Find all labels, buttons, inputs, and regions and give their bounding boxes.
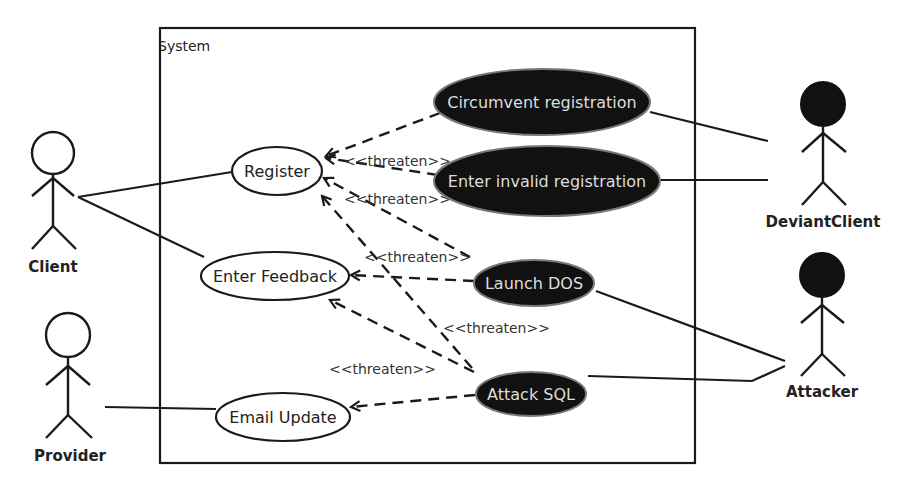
misuse-case-circumvent-registration[interactable]: Circumvent registration [434, 69, 650, 135]
actor-head-icon [46, 313, 90, 357]
misuse-case-launch-dos[interactable]: Launch DOS [474, 260, 594, 306]
use-case-label: Register [244, 162, 310, 181]
actor-deviant-client[interactable]: DeviantClient [766, 82, 881, 231]
use-case-email-update[interactable]: Email Update [216, 393, 350, 441]
threaten-label: <<threaten>> [443, 320, 550, 336]
actor-client[interactable]: Client [28, 132, 77, 276]
use-case-enter-feedback[interactable]: Enter Feedback [201, 252, 349, 300]
use-case-diagram: System <<threaten>> <<threaten>> <<threa… [0, 0, 903, 496]
use-case-label: Email Update [229, 408, 336, 427]
threat-dos-feedback [351, 275, 474, 281]
actor-label: Client [28, 258, 77, 276]
misuse-case-label: Circumvent registration [447, 93, 637, 112]
assoc-client-feedback [78, 197, 204, 257]
assoc-client-register [78, 172, 232, 197]
assoc-provider-email [105, 407, 216, 409]
threaten-label: <<threaten>> [344, 153, 451, 169]
system-label: System [158, 38, 210, 54]
threaten-label: <<threaten>> [364, 249, 471, 265]
actor-head-icon [801, 82, 845, 126]
actor-label: DeviantClient [766, 213, 881, 231]
actor-provider[interactable]: Provider [34, 313, 107, 465]
actor-head-icon [800, 253, 844, 297]
misuse-case-enter-invalid-registration[interactable]: Enter invalid registration [434, 146, 660, 216]
actor-attacker[interactable]: Attacker [786, 253, 859, 401]
assoc-deviant-circumvent [650, 112, 768, 141]
threaten-label: <<threaten>> [344, 191, 451, 207]
use-case-register[interactable]: Register [232, 147, 322, 195]
assoc-attacker-dos [596, 291, 785, 361]
threat-circumvent-register [326, 113, 440, 156]
actor-head-icon [32, 132, 74, 174]
misuse-case-label: Launch DOS [485, 274, 583, 293]
assoc-attacker-sql [588, 366, 785, 381]
misuse-case-attack-sql[interactable]: Attack SQL [476, 372, 586, 416]
threat-sql-email [351, 395, 475, 407]
misuse-case-label: Attack SQL [487, 385, 575, 404]
actor-label: Provider [34, 447, 107, 465]
actor-label: Attacker [786, 383, 859, 401]
threaten-label: <<threaten>> [329, 361, 436, 377]
misuse-case-label: Enter invalid registration [448, 172, 646, 191]
use-case-label: Enter Feedback [213, 267, 338, 286]
